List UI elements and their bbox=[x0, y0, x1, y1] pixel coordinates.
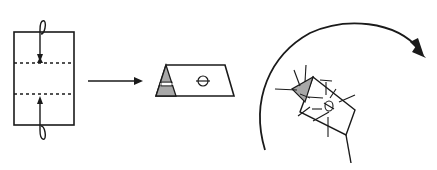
circle-mark-rotated-icon bbox=[324, 101, 334, 111]
diagram-canvas bbox=[0, 0, 437, 170]
step-2-folded-shape bbox=[156, 65, 234, 96]
step-3-rotated-shape bbox=[275, 65, 355, 163]
next-step-arrow-icon bbox=[88, 77, 143, 85]
step-1-sheet bbox=[14, 21, 74, 140]
rotate-arrow-icon bbox=[260, 23, 426, 150]
fold-arrow-bottom-icon bbox=[40, 100, 45, 139]
